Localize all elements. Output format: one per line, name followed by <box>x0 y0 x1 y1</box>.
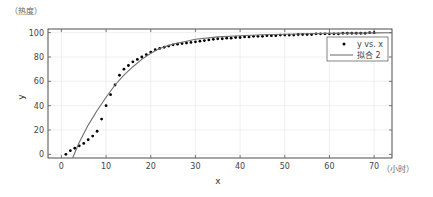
svg-text:60: 60 <box>34 77 44 86</box>
svg-text:0: 0 <box>39 150 44 159</box>
svg-text:50: 50 <box>280 162 290 171</box>
svg-text:30: 30 <box>190 162 200 171</box>
chart: （热度） 010203040506070020406080100 x y （小时… <box>0 0 433 197</box>
y-unit-annotation: （热度） <box>10 6 42 16</box>
svg-text:40: 40 <box>34 102 44 111</box>
legend-item-data: y vs. x <box>357 40 383 49</box>
legend: y vs. x 拟合 2 <box>327 37 388 61</box>
svg-text:100: 100 <box>29 29 44 38</box>
legend-marker-icon <box>343 43 346 46</box>
svg-text:20: 20 <box>34 126 44 135</box>
svg-text:40: 40 <box>235 162 245 171</box>
svg-text:70: 70 <box>369 162 379 171</box>
svg-text:20: 20 <box>146 162 156 171</box>
y-axis-label: y <box>16 94 26 100</box>
x-unit-annotation: （小时） <box>382 164 414 174</box>
svg-text:60: 60 <box>324 162 334 171</box>
svg-text:10: 10 <box>101 162 111 171</box>
legend-item-fit: 拟合 2 <box>357 50 381 60</box>
svg-text:80: 80 <box>34 53 44 62</box>
x-axis-label: x <box>215 176 221 186</box>
svg-text:0: 0 <box>59 162 64 171</box>
